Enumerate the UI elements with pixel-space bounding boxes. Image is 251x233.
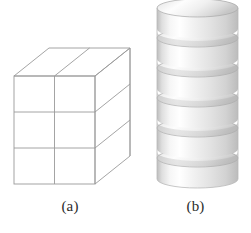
stacked-discs-diagram (140, 0, 251, 195)
box-faces (14, 48, 130, 184)
figure-panel-a: (a) (0, 0, 140, 233)
wireframe-box-diagram (0, 0, 140, 195)
figure-panel-b: (b) (140, 0, 251, 233)
caption-panel-a: (a) (0, 198, 140, 215)
disc-stack (157, 0, 238, 188)
caption-panel-b: (b) (140, 198, 251, 215)
figure-container: (a) (0, 0, 251, 233)
